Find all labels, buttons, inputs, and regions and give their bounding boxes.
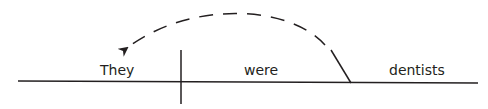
verb-word: were (244, 62, 278, 78)
diagram-canvas (0, 0, 488, 109)
dashed-arrow-arc (127, 13, 325, 48)
complement-word: dentists (389, 62, 445, 78)
subject-word: They (100, 62, 134, 78)
baseline (18, 81, 478, 83)
complement-slash (331, 50, 351, 83)
